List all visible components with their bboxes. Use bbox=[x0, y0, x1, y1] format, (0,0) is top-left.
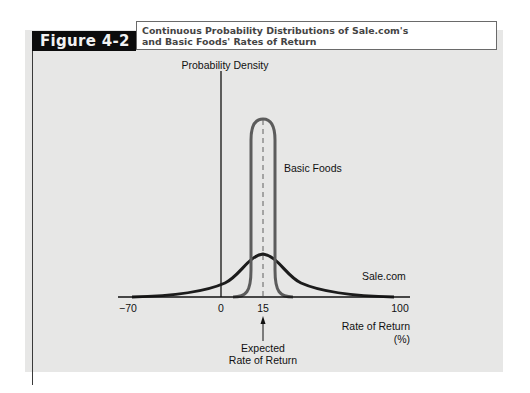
annotation-line1: Expected bbox=[241, 342, 285, 354]
x-tick-100: 100 bbox=[391, 302, 409, 314]
annotation-line2: Rate of Return bbox=[229, 354, 297, 366]
arrow-head-icon bbox=[261, 316, 266, 324]
y-axis-label: Probability Density bbox=[182, 59, 269, 71]
x-tick-15: 15 bbox=[257, 302, 269, 314]
x-axis-label-line2: (%) bbox=[394, 333, 410, 345]
basic-foods-label: Basic Foods bbox=[284, 162, 342, 174]
x-axis-label-line1: Rate of Return bbox=[342, 320, 410, 332]
sale-com-label: Sale.com bbox=[362, 270, 406, 282]
x-tick-0: 0 bbox=[218, 302, 224, 314]
x-tick-minus70: −70 bbox=[119, 302, 137, 314]
